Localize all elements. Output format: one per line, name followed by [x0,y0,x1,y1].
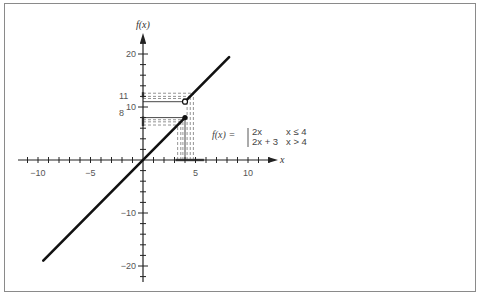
segment-2x [43,118,185,261]
formula-case-expr: 2x + 3 [252,136,278,147]
x-tick-label: −5 [85,168,95,178]
closed-endpoint-dot [182,115,187,120]
y-tick-label: 10 [126,102,136,112]
y-tick-label: −20 [121,261,136,271]
chart-canvas: xf(x)−10−55102010−10−20 118 f(x) =2xx ≤ … [0,0,482,299]
y-axis-label: f(x) [136,19,151,31]
x-axis-label: x [279,154,285,165]
x-tick-label: 5 [193,168,198,178]
y-axis-arrow-icon [140,33,146,43]
x-tick-label: −10 [30,168,45,178]
formula-lhs: f(x) = [212,129,235,141]
value-annotation-8: 8 [119,108,124,118]
value-annotation-11: 11 [119,91,128,101]
open-endpoint-dot [183,99,188,104]
axes [18,33,278,282]
x-tick-label: 10 [243,168,253,178]
y-tick-label: 20 [126,49,136,59]
piecewise-formula: f(x) =2xx ≤ 42x + 3x > 4 [212,126,307,147]
formula-case-condition: x > 4 [286,136,307,147]
y-tick-label: −10 [121,208,136,218]
segment-2x-plus-3 [185,57,229,102]
